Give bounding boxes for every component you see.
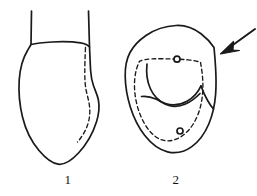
panel-1-group xyxy=(19,11,99,164)
upper-ring-marker xyxy=(174,56,180,62)
figure-canvas xyxy=(0,0,257,196)
pointer-arrow xyxy=(221,29,256,54)
right-stalk-line xyxy=(89,11,90,47)
lower-ring-marker xyxy=(177,128,183,134)
panel-2-group xyxy=(125,25,255,152)
figure-1-label: 1 xyxy=(58,173,78,187)
figure-plate: 1 2 xyxy=(0,0,257,196)
figure-2-label: 2 xyxy=(166,173,186,187)
left-stalk-line xyxy=(31,11,32,45)
outer-outline xyxy=(19,42,99,165)
